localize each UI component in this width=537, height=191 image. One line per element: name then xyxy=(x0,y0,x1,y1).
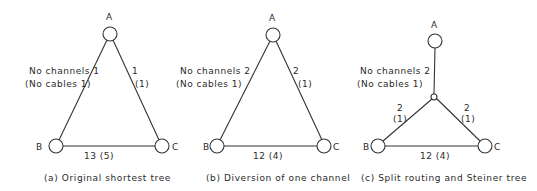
edge-a-AC-cables: (1) xyxy=(135,79,149,89)
node-b-B xyxy=(210,139,224,153)
node-a-C xyxy=(155,139,169,153)
steiner-point xyxy=(431,94,437,100)
edge-b-AB-cables: (No cables 1) xyxy=(176,79,242,89)
node-b-C xyxy=(317,139,331,153)
edge-c-steiner-B-channels: 2 xyxy=(397,103,403,113)
node-a-A xyxy=(103,27,117,41)
edge-a-AB xyxy=(59,40,107,140)
node-label-a-B: B xyxy=(36,142,43,152)
edge-a-AB-channels: No channels 1 xyxy=(29,66,100,76)
network-diagram: A B C No channels 1 (No cables 1) 1 (1) … xyxy=(0,0,537,191)
edge-a-AC xyxy=(113,40,159,140)
edge-b-AC-channels: 2 xyxy=(293,66,299,76)
node-a-B xyxy=(49,139,63,153)
node-c-A xyxy=(428,34,442,48)
edge-c-steiner-C-channels: 2 xyxy=(464,103,470,113)
edge-c-A-steiner-channels: No channels 2 xyxy=(360,66,431,76)
node-label-b-C: C xyxy=(333,142,340,152)
edge-c-steiner-B-cables: (1) xyxy=(393,114,407,124)
node-label-a-C: C xyxy=(172,142,179,152)
node-label-c-B: B xyxy=(363,142,370,152)
node-label-a-A: A xyxy=(106,12,113,22)
edge-b-AC-cables: (1) xyxy=(298,79,312,89)
edge-c-A-steiner xyxy=(434,48,435,94)
caption-c: (c) Split routing and Steiner tree xyxy=(361,173,527,183)
edge-a-AC-channels: 1 xyxy=(132,66,138,76)
node-b-A xyxy=(266,28,280,42)
node-c-C xyxy=(478,139,492,153)
node-label-c-A: A xyxy=(431,20,438,30)
edge-b-AC xyxy=(276,41,322,140)
edge-b-AB-channels: No channels 2 xyxy=(180,66,251,76)
node-label-c-C: C xyxy=(494,142,501,152)
edge-c-steiner-C-cables: (1) xyxy=(461,114,475,124)
edge-a-BC-label: 13 (5) xyxy=(84,151,114,161)
edge-c-A-steiner-cables: (No cables 1) xyxy=(357,79,423,89)
edge-b-AB xyxy=(220,41,270,140)
node-c-B xyxy=(371,139,385,153)
node-label-b-B: B xyxy=(203,142,210,152)
caption-a: (a) Original shortest tree xyxy=(44,173,171,183)
edge-a-AB-cables: (No cables 1) xyxy=(25,79,91,89)
caption-b: (b) Diversion of one channel xyxy=(206,173,350,183)
node-label-b-A: A xyxy=(269,13,276,23)
edge-b-BC-label: 12 (4) xyxy=(253,151,283,161)
diagram-graphics xyxy=(0,0,537,191)
edge-c-BC-label: 12 (4) xyxy=(420,151,450,161)
edge-c-steiner-B xyxy=(383,99,432,141)
